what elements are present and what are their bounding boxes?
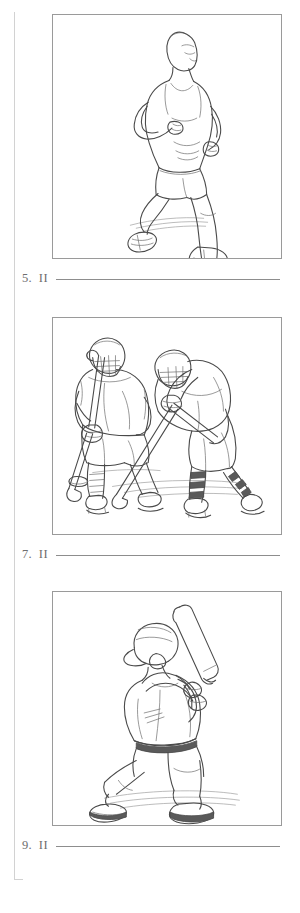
figure-frame xyxy=(52,591,282,826)
baseball-batter-figure xyxy=(53,592,281,825)
running-figure xyxy=(53,15,281,258)
figure-frame xyxy=(52,317,282,535)
ice-hockey-figure xyxy=(53,318,281,534)
answer-row: 5. II xyxy=(22,271,280,289)
question-marker: II xyxy=(39,547,48,562)
margin-rule xyxy=(14,12,15,880)
answer-blank-line[interactable] xyxy=(56,279,280,280)
worksheet-page: 5. II xyxy=(0,0,300,913)
answer-blank-line[interactable] xyxy=(56,555,280,556)
answer-blank-line[interactable] xyxy=(56,846,280,847)
question-marker: II xyxy=(39,271,48,286)
figure-frame xyxy=(52,14,282,259)
answer-row: 9. II xyxy=(22,838,280,856)
question-number: 7. xyxy=(22,547,32,562)
answer-row: 7. II xyxy=(22,547,280,565)
question-number: 5. xyxy=(22,271,32,286)
question-marker: II xyxy=(39,838,48,853)
margin-rule-foot xyxy=(14,879,23,880)
question-number: 9. xyxy=(22,838,32,853)
